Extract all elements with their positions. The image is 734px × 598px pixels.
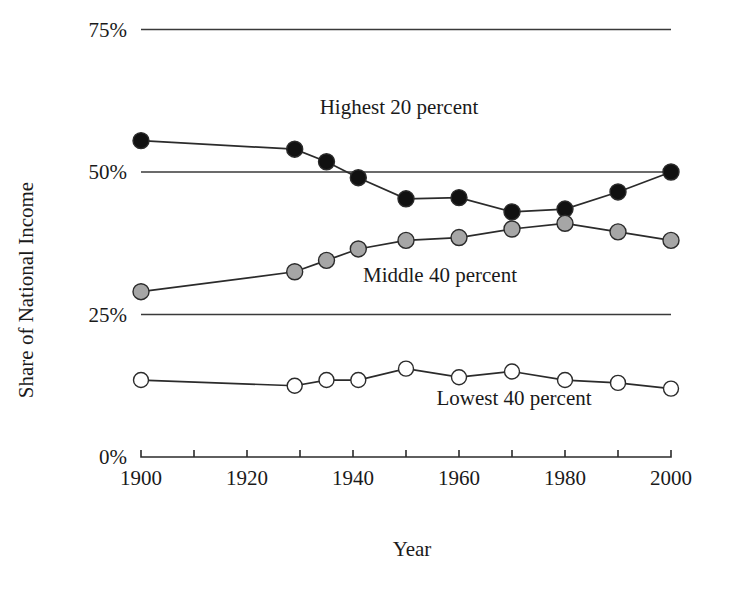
data-point — [319, 373, 334, 388]
data-point — [611, 375, 626, 390]
y-axis-title: Share of National Income — [14, 182, 38, 398]
data-point — [663, 164, 679, 180]
data-point — [505, 364, 520, 379]
data-point — [452, 370, 467, 385]
x-axis-title: Year — [393, 537, 432, 561]
x-tick-label-1920: 1920 — [226, 466, 268, 490]
data-point — [664, 381, 679, 396]
data-point — [663, 232, 679, 248]
data-point — [133, 133, 149, 149]
data-point — [451, 230, 467, 246]
income-share-line-chart: 0%25%50%75% 190019201940196019802000 Hig… — [0, 0, 734, 598]
data-point — [610, 184, 626, 200]
data-point — [398, 232, 414, 248]
data-point — [350, 170, 366, 186]
series-annotation-0: Highest 20 percent — [320, 95, 479, 119]
x-axis-tick-labels: 190019201940196019802000 — [120, 466, 692, 490]
data-point — [399, 361, 414, 376]
y-tick-label-25pct: 25% — [89, 303, 128, 327]
x-tick-label-1960: 1960 — [438, 466, 480, 490]
series-annotation-2: Lowest 40 percent — [436, 386, 591, 410]
data-point — [287, 141, 303, 157]
y-tick-label-50pct: 50% — [89, 160, 128, 184]
data-point — [133, 284, 149, 300]
x-tick-label-1940: 1940 — [332, 466, 374, 490]
data-point — [287, 378, 302, 393]
axis-tick-marks — [194, 450, 618, 457]
x-tick-label-1900: 1900 — [120, 466, 162, 490]
y-axis-tick-labels: 0%25%50%75% — [89, 18, 128, 470]
chart-canvas: 0%25%50%75% 190019201940196019802000 Hig… — [0, 0, 734, 598]
x-tick-label-2000: 2000 — [650, 466, 692, 490]
data-point — [350, 241, 366, 257]
data-point — [557, 215, 573, 231]
data-point — [504, 204, 520, 220]
data-point — [451, 190, 467, 206]
data-point — [134, 373, 149, 388]
data-point — [351, 373, 366, 388]
x-tick-label-1980: 1980 — [544, 466, 586, 490]
y-tick-label-75pct: 75% — [89, 18, 128, 42]
series-annotation-1: Middle 40 percent — [363, 263, 517, 287]
data-point — [610, 224, 626, 240]
data-point — [319, 252, 335, 268]
data-point — [398, 191, 414, 207]
data-point — [287, 264, 303, 280]
data-point — [504, 221, 520, 237]
data-point — [319, 154, 335, 170]
